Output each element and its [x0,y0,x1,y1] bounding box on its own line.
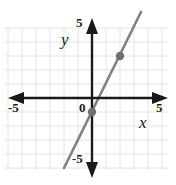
origin-label: 0 [79,101,86,114]
y-axis-arrow-up [86,18,98,34]
y-axis-max-tick-label: 5 [76,16,83,29]
x-axis-max-tick-label: 5 [156,101,163,114]
x-axis-name-label: x [139,114,147,131]
y-axis-min-tick-label: -5 [72,152,83,165]
plotted-line [64,12,141,168]
y-axis-name-label: y [61,31,69,48]
graph-canvas [0,0,176,185]
data-point-marker [88,108,96,116]
data-point-marker [116,52,124,60]
coordinate-graph: 5 -5 -5 5 0 y x [0,0,176,185]
x-axis [8,92,168,104]
x-axis-min-tick-label: -5 [8,101,19,114]
y-axis-arrow-down [86,162,98,178]
